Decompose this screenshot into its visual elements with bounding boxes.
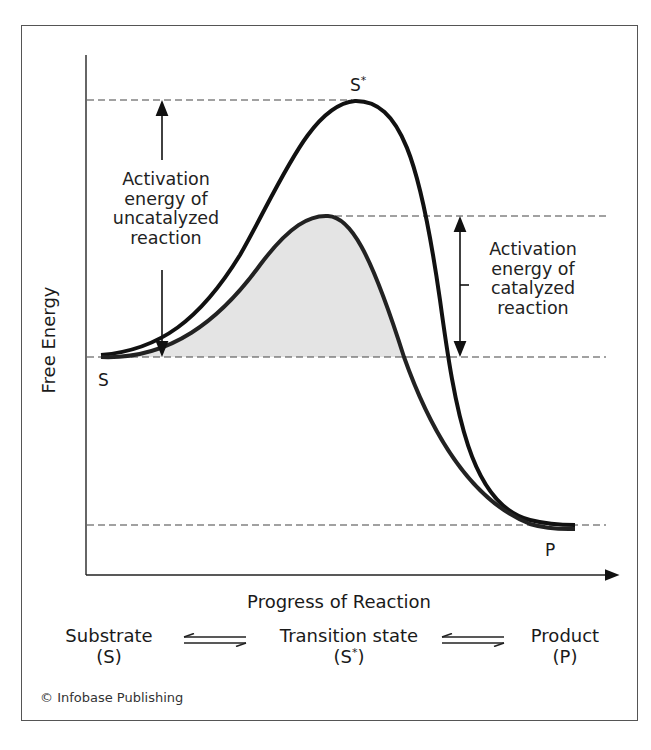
ts-open: (S (334, 646, 352, 667)
product-point-label: P (545, 540, 555, 560)
copyright-credit: © Infobase Publishing (40, 690, 183, 705)
transition-symbol: (S*) (280, 647, 418, 668)
product-symbol: (P) (531, 647, 599, 668)
substrate-name: Substrate (65, 626, 152, 647)
x-axis-label: Progress of Reaction (247, 591, 431, 612)
ts-letter: S (350, 75, 361, 95)
ts-close: ) (357, 646, 364, 667)
product-state: Product (P) (531, 626, 599, 667)
transition-state: Transition state (S*) (280, 626, 418, 667)
label-line: energy of (96, 190, 236, 210)
label-line: uncatalyzed (96, 209, 236, 229)
catalyzed-activation-label: Activation energy of catalyzed reaction (468, 240, 598, 318)
label-line: Activation (468, 240, 598, 260)
equilibrium-arrows-icon (440, 633, 506, 647)
substrate-point-label: S (98, 370, 109, 390)
substrate-symbol: (S) (65, 647, 152, 668)
substrate-state: Substrate (S) (65, 626, 152, 667)
transition-state-point-label: S* (350, 74, 366, 95)
label-line: catalyzed (468, 279, 598, 299)
ts-superscript: * (361, 74, 367, 87)
label-line: energy of (468, 260, 598, 280)
label-line: reaction (468, 299, 598, 319)
transition-name: Transition state (280, 626, 418, 647)
label-line: Activation (96, 170, 236, 190)
product-name: Product (531, 626, 599, 647)
equilibrium-arrows-icon (182, 633, 248, 647)
y-axis-label: Free Energy (38, 287, 59, 394)
label-line: reaction (96, 229, 236, 249)
uncatalyzed-activation-label: Activation energy of uncatalyzed reactio… (96, 170, 236, 248)
